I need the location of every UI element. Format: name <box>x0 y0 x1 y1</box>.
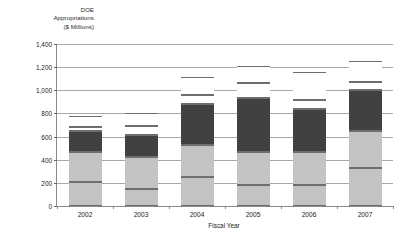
bar-segment <box>349 90 382 131</box>
bar-segment <box>293 109 326 152</box>
y-axis-tick-label: 800 <box>41 110 52 117</box>
bar-2003[interactable] <box>125 113 158 206</box>
bar-segment <box>237 66 270 83</box>
bar-segment <box>237 152 270 184</box>
y-axis-tick <box>54 183 57 184</box>
x-axis-tick <box>113 206 114 209</box>
chart-root: DOE Appropriations ($ Millions) 02004006… <box>0 0 398 240</box>
bar-segment <box>181 104 214 145</box>
plot-area: 02004006008001,0001,2001,400200220032004… <box>56 44 393 207</box>
x-axis-tick-label-2003: 2003 <box>134 211 149 218</box>
bar-segment <box>293 72 326 100</box>
y-axis-tick <box>54 160 57 161</box>
y-axis-tick-label: 0 <box>48 203 52 210</box>
y-axis-tick-label: 1,000 <box>36 87 52 94</box>
bar-segment <box>349 61 382 82</box>
y-axis-title: DOE Appropriations ($ Millions) <box>8 6 94 31</box>
bar-segment <box>181 95 214 104</box>
y-axis-tick <box>54 137 57 138</box>
bar-2004[interactable] <box>181 77 214 206</box>
bar-segment <box>69 152 102 183</box>
bar-2006[interactable] <box>293 72 326 206</box>
bar-segment <box>181 77 214 95</box>
y-axis-tick <box>54 44 57 45</box>
y-axis-title-line-1: DOE <box>8 6 94 14</box>
bar-segment <box>237 98 270 152</box>
x-axis-tick <box>393 206 394 209</box>
bar-2007[interactable] <box>349 61 382 206</box>
y-axis-title-line-2: Appropriations <box>8 14 94 22</box>
bar-segment <box>293 185 326 206</box>
x-axis-tick-label-2002: 2002 <box>78 211 93 218</box>
bar-segment <box>125 126 158 135</box>
y-axis-tick <box>54 90 57 91</box>
bar-segment <box>69 131 102 152</box>
gridline <box>57 183 393 184</box>
y-axis-tick-label: 400 <box>41 156 52 163</box>
gridline <box>57 67 393 68</box>
bar-segment <box>181 177 214 206</box>
bar-2005[interactable] <box>237 66 270 206</box>
y-axis-title-line-3: ($ Millions) <box>8 23 94 31</box>
x-axis-tick-label-2005: 2005 <box>246 211 261 218</box>
y-axis-tick <box>54 113 57 114</box>
bar-segment <box>237 83 270 98</box>
x-axis-tick <box>57 206 58 209</box>
x-axis-tick <box>169 206 170 209</box>
bar-segment <box>349 131 382 168</box>
bar-segment <box>293 152 326 184</box>
x-axis-title: Fiscal Year <box>56 222 392 229</box>
y-axis-tick-label: 1,200 <box>36 64 52 71</box>
bar-segment <box>69 127 102 130</box>
bar-segment <box>125 189 158 206</box>
bar-segment <box>181 145 214 177</box>
gridline <box>57 90 393 91</box>
gridline <box>57 113 393 114</box>
y-axis-tick-label: 600 <box>41 133 52 140</box>
bar-2002[interactable] <box>69 116 102 206</box>
x-axis-tick-label-2004: 2004 <box>190 211 205 218</box>
x-axis-tick <box>337 206 338 209</box>
bar-segment <box>69 116 102 128</box>
bar-segment <box>349 168 382 206</box>
bar-segment <box>349 82 382 90</box>
bar-segment <box>125 157 158 189</box>
gridline <box>57 160 393 161</box>
bar-segment <box>293 100 326 110</box>
x-axis-tick <box>225 206 226 209</box>
bar-segment <box>69 182 102 206</box>
bar-segment <box>125 135 158 156</box>
bar-segment <box>237 185 270 206</box>
x-axis-tick-label-2006: 2006 <box>302 211 317 218</box>
y-axis-tick-label: 200 <box>41 179 52 186</box>
x-axis-tick-label-2007: 2007 <box>358 211 373 218</box>
bar-segment <box>125 113 158 126</box>
gridline <box>57 137 393 138</box>
x-axis-tick <box>281 206 282 209</box>
gridline <box>57 44 393 45</box>
y-axis-tick <box>54 67 57 68</box>
y-axis-tick-label: 1,400 <box>36 41 52 48</box>
